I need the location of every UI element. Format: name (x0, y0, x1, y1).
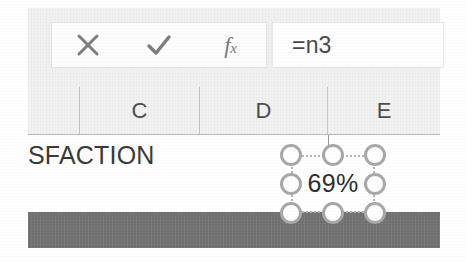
column-header-e[interactable]: E (328, 87, 440, 134)
checkmark-icon (145, 32, 173, 58)
formula-input[interactable]: =n3 (272, 22, 444, 68)
confirm-formula-button[interactable] (131, 24, 187, 66)
resize-handle-ne[interactable] (364, 144, 386, 166)
object-selection-overlay[interactable]: 69% (291, 155, 375, 213)
resize-handle-nw[interactable] (280, 144, 302, 166)
resize-handle-s[interactable] (322, 202, 344, 224)
column-header-c-label: C (132, 98, 148, 124)
formula-input-value: =n3 (273, 32, 332, 59)
resize-handle-n[interactable] (322, 144, 344, 166)
selected-cell-value: 69% (291, 169, 375, 198)
column-header-row: C D E (28, 87, 440, 135)
close-x-icon (75, 32, 101, 58)
resize-handle-e[interactable] (364, 173, 386, 195)
screenshot-root: fx =n3 C D E SFACTION 69% (0, 0, 466, 263)
insert-function-button[interactable]: fx (202, 24, 258, 66)
cell-text-truncated[interactable]: SFACTION (28, 141, 155, 170)
resize-handle-se[interactable] (364, 202, 386, 224)
fx-letter-x: x (230, 40, 236, 56)
formula-bar-buttons: fx (51, 22, 267, 68)
insert-function-fx-icon: fx (224, 34, 236, 57)
column-header-e-label: E (377, 98, 392, 124)
column-header-d-label: D (256, 98, 272, 124)
column-header-partial[interactable] (28, 87, 80, 134)
column-header-d[interactable]: D (200, 87, 328, 134)
cancel-formula-button[interactable] (60, 24, 116, 66)
resize-handle-w[interactable] (280, 173, 302, 195)
column-header-c[interactable]: C (80, 87, 200, 134)
resize-handle-sw[interactable] (280, 202, 302, 224)
